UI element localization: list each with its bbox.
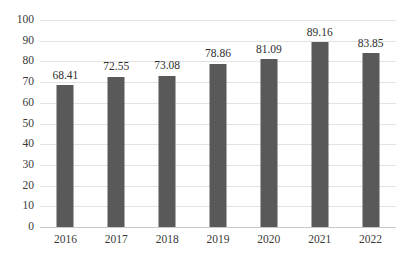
bar[interactable] bbox=[108, 77, 125, 227]
bar-value-label: 78.86 bbox=[205, 48, 231, 60]
y-axis-tick-label: 50 bbox=[23, 118, 35, 130]
bar-slot: 78.86 bbox=[193, 20, 244, 227]
y-axis-tick-label: 0 bbox=[28, 221, 34, 233]
bar[interactable] bbox=[362, 53, 379, 227]
bar-slot: 73.08 bbox=[142, 20, 193, 227]
bar[interactable] bbox=[159, 76, 176, 227]
y-axis-tick-label: 10 bbox=[23, 201, 35, 213]
bar-slot: 81.09 bbox=[243, 20, 294, 227]
bar-slot: 68.41 bbox=[40, 20, 91, 227]
x-axis-tick-label: 2018 bbox=[156, 234, 179, 246]
bar-value-label: 83.85 bbox=[358, 38, 384, 50]
y-axis-tick-label: 80 bbox=[23, 56, 35, 68]
bar-value-label: 89.16 bbox=[307, 27, 333, 39]
bar[interactable] bbox=[260, 59, 277, 227]
bar-value-label: 73.08 bbox=[154, 60, 180, 72]
plot-area: 1009080706050403020100 68.4172.5573.0878… bbox=[40, 20, 396, 227]
y-axis-tick-label: 30 bbox=[23, 159, 35, 171]
y-axis-tick-label: 70 bbox=[23, 76, 35, 88]
y-axis-tick-label: 90 bbox=[23, 35, 35, 47]
bar-value-label: 81.09 bbox=[256, 44, 282, 56]
bar-value-label: 68.41 bbox=[52, 70, 78, 82]
gridline bbox=[40, 227, 396, 228]
bar-chart: 1009080706050403020100 68.4172.5573.0878… bbox=[0, 0, 409, 264]
y-axis-tick-label: 20 bbox=[23, 180, 35, 192]
bar-value-label: 72.55 bbox=[103, 61, 129, 73]
bar-slot: 89.16 bbox=[294, 20, 345, 227]
x-axis-tick-label: 2021 bbox=[308, 234, 331, 246]
bars-layer: 68.4172.5573.0878.8681.0989.1683.85 bbox=[40, 20, 396, 227]
bar-slot: 72.55 bbox=[91, 20, 142, 227]
bar-slot: 83.85 bbox=[345, 20, 396, 227]
x-axis-tick-label: 2016 bbox=[54, 234, 77, 246]
bar[interactable] bbox=[311, 42, 328, 227]
x-axis-tick-label: 2017 bbox=[105, 234, 128, 246]
x-axis-tick-label: 2022 bbox=[359, 234, 382, 246]
y-axis-tick-label: 100 bbox=[17, 14, 34, 26]
x-axis-tick-label: 2020 bbox=[257, 234, 280, 246]
y-axis-tick-label: 60 bbox=[23, 97, 35, 109]
y-axis-tick-label: 40 bbox=[23, 138, 35, 150]
bar[interactable] bbox=[209, 64, 226, 227]
bar[interactable] bbox=[57, 85, 74, 227]
x-axis-tick-label: 2019 bbox=[207, 234, 230, 246]
